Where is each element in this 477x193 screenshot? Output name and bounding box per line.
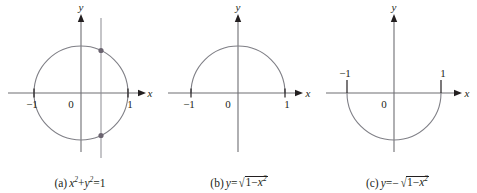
origin-label: 0: [381, 98, 387, 110]
y-axis-arrow-icon: [235, 14, 241, 22]
x-axis-label: x: [147, 87, 153, 99]
eq-a-rhs: 1: [100, 177, 106, 189]
caption-c: (c)y=−√1−x2: [318, 176, 477, 190]
x-tick-label-plus-one: 1: [127, 98, 133, 110]
x-tick-label-minus-one: −1: [26, 98, 38, 110]
panel-c: x y −1 0 1 (c)y=−√1−x2: [318, 0, 477, 193]
eq-c-radical: √1−x2: [399, 176, 429, 190]
panel-b: x y −1 0 1 (b)y=√1−x2: [160, 0, 318, 193]
intersection-point-upper: [98, 48, 103, 53]
caption-b-equation: y=√1−x2: [224, 177, 268, 189]
caption-c-equation: y=−√1−x2: [379, 177, 429, 189]
intersection-point-lower: [98, 133, 103, 138]
x-axis-label: x: [305, 87, 311, 99]
y-axis-label: y: [391, 1, 397, 13]
caption-a: (a)x2+y2=1: [0, 178, 160, 190]
x-tick-label-minus-one: −1: [183, 98, 195, 110]
eq-b-radicand: 1−x2: [245, 176, 268, 189]
origin-label: 0: [225, 98, 231, 110]
caption-c-label: (c): [366, 177, 379, 189]
eq-b-exp: 2: [263, 174, 267, 183]
y-axis-arrow-icon: [78, 14, 84, 22]
y-axis-arrow-icon: [391, 14, 397, 22]
math-figure: x y −1 0 1 (a)x2+y2=1 x y −1 0 1: [0, 0, 477, 193]
x-axis-arrow-icon: [295, 90, 303, 96]
caption-a-equation: x2+y2=1: [67, 177, 105, 189]
eq-c-exp: 2: [424, 174, 428, 183]
y-axis-label: y: [235, 1, 241, 13]
caption-b-label: (b): [210, 177, 223, 189]
y-axis-label: y: [78, 1, 84, 13]
eq-b-radical: √1−x2: [237, 176, 267, 190]
x-tick-label-minus-one: −1: [339, 67, 351, 79]
eq-c-radicand: 1−x2: [406, 176, 429, 189]
plot-a: x y −1 0 1: [0, 0, 160, 165]
x-axis-label: x: [464, 87, 470, 99]
origin-label: 0: [68, 98, 74, 110]
plot-c: x y −1 0 1: [318, 0, 477, 165]
caption-a-label: (a): [54, 177, 67, 189]
plot-b: x y −1 0 1: [160, 0, 318, 165]
x-tick-label-plus-one: 1: [284, 98, 290, 110]
x-tick-label-plus-one: 1: [440, 67, 446, 79]
panel-a: x y −1 0 1 (a)x2+y2=1: [0, 0, 160, 193]
caption-b: (b)y=√1−x2: [160, 176, 318, 190]
x-axis-arrow-icon: [454, 90, 462, 96]
x-axis-arrow-icon: [138, 90, 146, 96]
